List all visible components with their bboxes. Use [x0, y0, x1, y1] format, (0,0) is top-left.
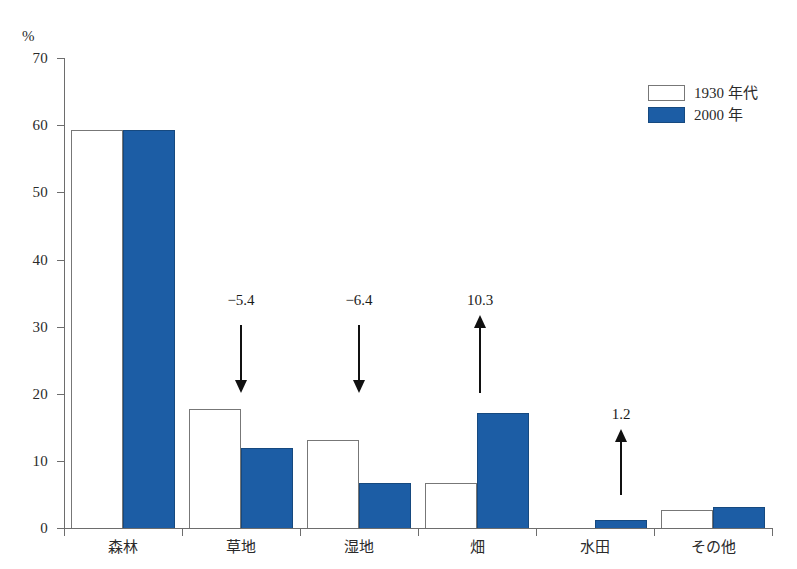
bar-2000-other: [713, 507, 765, 528]
annotation-label-field: 10.3: [430, 293, 530, 308]
y-tick-mark-30: [57, 327, 65, 328]
y-tick-label-50: 50: [0, 185, 48, 200]
y-tick-mark-20: [57, 394, 65, 395]
bar-1930s-wetland: [307, 440, 359, 528]
annotation-arrow-up-field: [460, 315, 500, 393]
legend-swatch-2000: [648, 107, 685, 123]
legend-swatch-1930s: [648, 85, 685, 101]
annotation-label-paddy: 1.2: [571, 407, 671, 422]
x-tick-mark-3: [418, 528, 419, 536]
y-tick-label-40: 40: [0, 253, 48, 268]
y-tick-label-10: 10: [0, 454, 48, 469]
x-category-label-grassland: 草地: [182, 538, 300, 556]
bar-2000-wetland: [359, 483, 411, 528]
x-category-label-other: その他: [654, 538, 772, 556]
y-tick-mark-40: [57, 260, 65, 261]
x-category-label-forest: 森林: [64, 538, 182, 556]
bar-2000-forest: [123, 130, 175, 528]
annotation-arrow-up-paddy: [601, 429, 641, 495]
legend-item-2000: 2000 年: [648, 104, 758, 126]
y-tick-label-60: 60: [0, 118, 48, 133]
x-category-label-field: 畑: [418, 538, 536, 556]
annotation-label-wetland: −6.4: [309, 293, 409, 308]
x-category-label-paddy: 水田: [536, 538, 654, 556]
x-tick-mark-6: [772, 528, 773, 536]
y-tick-mark-70: [57, 58, 65, 59]
y-tick-label-30: 30: [0, 320, 48, 335]
bar-1930s-field: [425, 483, 477, 528]
bar-2000-field: [477, 413, 529, 528]
bar-1930s-other: [661, 510, 713, 528]
legend-label-1930s: 1930 年代: [694, 86, 758, 101]
bar-1930s-forest: [71, 130, 123, 528]
y-tick-mark-50: [57, 192, 65, 193]
annotation-arrow-down-grassland: [221, 325, 261, 393]
y-tick-mark-10: [57, 461, 65, 462]
y-tick-label-20: 20: [0, 387, 48, 402]
x-tick-mark-1: [182, 528, 183, 536]
x-tick-mark-2: [300, 528, 301, 536]
x-tick-mark-4: [536, 528, 537, 536]
y-tick-label-70: 70: [0, 51, 48, 66]
x-tick-mark-0: [64, 528, 65, 536]
bar-2000-paddy: [595, 520, 647, 528]
y-axis-unit-label: %: [22, 29, 35, 44]
y-tick-mark-60: [57, 125, 65, 126]
annotation-arrow-down-wetland: [339, 325, 379, 393]
y-tick-label-0: 0: [0, 521, 48, 536]
legend-label-2000: 2000 年: [694, 108, 743, 123]
bar-chart: % 70 60 50 40 30 20 10 0 森林 草地 −5.4 湿地 −…: [0, 0, 797, 569]
legend-item-1930s: 1930 年代: [648, 82, 758, 104]
bar-2000-grassland: [241, 448, 293, 528]
annotation-label-grassland: −5.4: [191, 293, 291, 308]
y-axis-line: [64, 58, 65, 529]
x-tick-mark-5: [654, 528, 655, 536]
legend: 1930 年代 2000 年: [648, 82, 758, 126]
bar-1930s-grassland: [189, 409, 241, 528]
x-category-label-wetland: 湿地: [300, 538, 418, 556]
